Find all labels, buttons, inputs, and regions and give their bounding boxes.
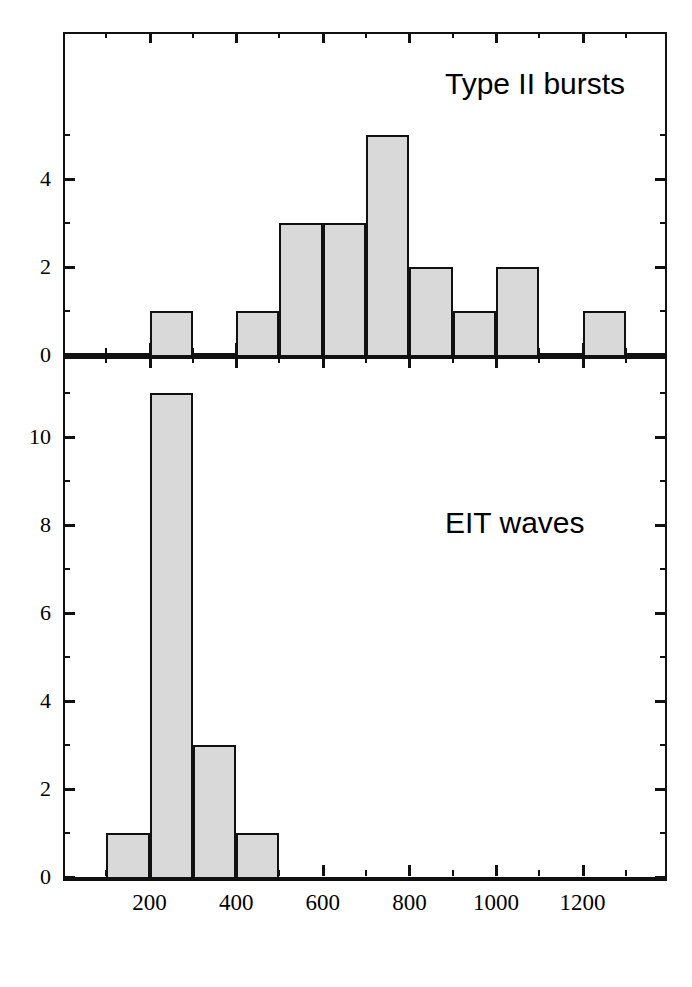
y-tick-label: 10 xyxy=(0,426,51,448)
x-tick-minor xyxy=(278,870,280,876)
x-tick-major xyxy=(408,865,411,876)
y-tick-minor-right xyxy=(660,392,667,394)
y-tick-minor xyxy=(63,744,70,746)
y-tick-label: 0 xyxy=(0,866,51,888)
y-tick-minor-right xyxy=(660,656,667,658)
x-tick-major-top xyxy=(322,357,325,368)
y-tick-minor xyxy=(63,656,70,658)
x-tick-major-top xyxy=(235,357,238,368)
y-tick-minor xyxy=(63,568,70,570)
x-tick-minor-top xyxy=(452,357,454,363)
y-tick-minor-right xyxy=(660,832,667,834)
y-tick-major xyxy=(63,436,75,439)
x-tick-major xyxy=(495,865,498,876)
x-tick-minor xyxy=(538,870,540,876)
figure-histogram-pair: Type II bursts EIT waves 024024681020040… xyxy=(0,0,692,987)
x-tick-minor-top xyxy=(105,357,107,363)
x-tick-minor-top xyxy=(538,357,540,363)
y-tick-major-right xyxy=(655,524,667,527)
y-tick-label: 6 xyxy=(0,602,51,624)
y-tick-label: 2 xyxy=(0,256,51,278)
x-tick-major xyxy=(149,865,152,876)
y-tick-minor xyxy=(63,832,70,834)
panel-annotation-bottom: EIT waves xyxy=(445,507,585,539)
y-tick-major xyxy=(63,700,75,703)
x-tick-minor xyxy=(192,870,194,876)
x-tick-minor-top xyxy=(278,357,280,363)
x-tick-major-top xyxy=(408,357,411,368)
y-tick-major xyxy=(63,876,75,879)
y-tick-major-right xyxy=(655,700,667,703)
y-tick-minor-right xyxy=(660,480,667,482)
y-tick-major-right xyxy=(655,788,667,791)
x-tick-major-top xyxy=(582,357,585,368)
x-tick-label: 1000 xyxy=(446,891,546,914)
y-tick-minor xyxy=(63,480,70,482)
x-tick-major-top xyxy=(495,357,498,368)
x-tick-label: 1200 xyxy=(533,891,633,914)
y-tick-major-right xyxy=(655,612,667,615)
x-tick-minor-top xyxy=(625,357,627,363)
y-tick-minor xyxy=(63,392,70,394)
x-tick-label: 800 xyxy=(359,891,459,914)
y-tick-label: 0 xyxy=(0,344,51,366)
x-tick-minor-top xyxy=(365,357,367,363)
y-tick-label: 2 xyxy=(0,778,51,800)
y-tick-label: 4 xyxy=(0,690,51,712)
y-tick-label: 8 xyxy=(0,514,51,536)
ticks-bottom xyxy=(0,0,692,987)
x-tick-minor xyxy=(105,870,107,876)
x-tick-label: 400 xyxy=(186,891,286,914)
y-tick-major xyxy=(63,612,75,615)
x-tick-major xyxy=(322,865,325,876)
x-tick-minor xyxy=(452,870,454,876)
x-tick-major xyxy=(235,865,238,876)
x-tick-label: 600 xyxy=(273,891,373,914)
y-tick-major xyxy=(63,524,75,527)
x-tick-label: 200 xyxy=(100,891,200,914)
x-tick-major-top xyxy=(149,357,152,368)
y-tick-label: 4 xyxy=(0,168,51,190)
y-tick-major xyxy=(63,788,75,791)
x-tick-minor xyxy=(365,870,367,876)
y-tick-minor-right xyxy=(660,744,667,746)
x-tick-minor-top xyxy=(192,357,194,363)
y-tick-minor-right xyxy=(660,568,667,570)
x-tick-minor xyxy=(625,870,627,876)
y-tick-major-right xyxy=(655,876,667,879)
y-tick-major-right xyxy=(655,436,667,439)
x-tick-major xyxy=(582,865,585,876)
